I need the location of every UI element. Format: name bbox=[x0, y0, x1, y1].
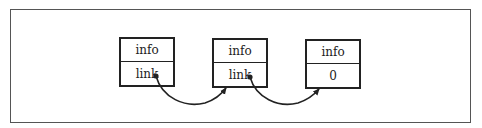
curved-arrow-icon bbox=[156, 76, 226, 104]
curved-arrow-icon bbox=[250, 77, 319, 104]
link-arrows bbox=[0, 0, 482, 128]
link-arrow-1-to-2 bbox=[153, 73, 226, 104]
link-arrow-2-to-3 bbox=[247, 74, 319, 104]
